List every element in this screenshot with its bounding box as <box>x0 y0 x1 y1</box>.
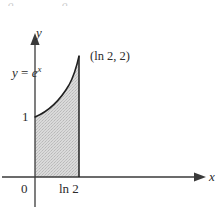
x-axis-arrowhead <box>194 172 206 181</box>
x-axis-label: x <box>209 170 215 183</box>
function-lhs: y <box>12 65 18 80</box>
shaded-area-region <box>35 56 79 177</box>
function-equals: = <box>21 65 28 80</box>
origin-label: 0 <box>21 182 28 195</box>
function-equation-label: y = ex <box>12 66 41 79</box>
y-tick-label-1: 1 <box>22 110 29 123</box>
point-coordinate-label: (ln 2, 2) <box>90 50 130 63</box>
function-exponent: x <box>37 64 41 74</box>
x-tick-label-ln2: ln 2 <box>59 182 79 195</box>
figure-container: o o y x y = ex 1 0 ln 2 <box>0 0 221 210</box>
y-axis-label: y <box>36 26 42 39</box>
plot-canvas <box>0 0 221 210</box>
